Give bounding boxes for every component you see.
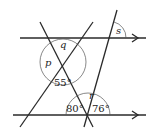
angle-label-80: 80° <box>66 103 84 114</box>
angle-label-76: 76° <box>92 103 110 114</box>
angle-label-q: q <box>60 39 66 50</box>
geometry-diagram: q p 55° r 80° 76° s <box>0 0 154 136</box>
angle-label-p: p <box>45 57 52 68</box>
angle-label-55: 55° <box>54 77 72 88</box>
angle-label-s: s <box>116 25 121 36</box>
